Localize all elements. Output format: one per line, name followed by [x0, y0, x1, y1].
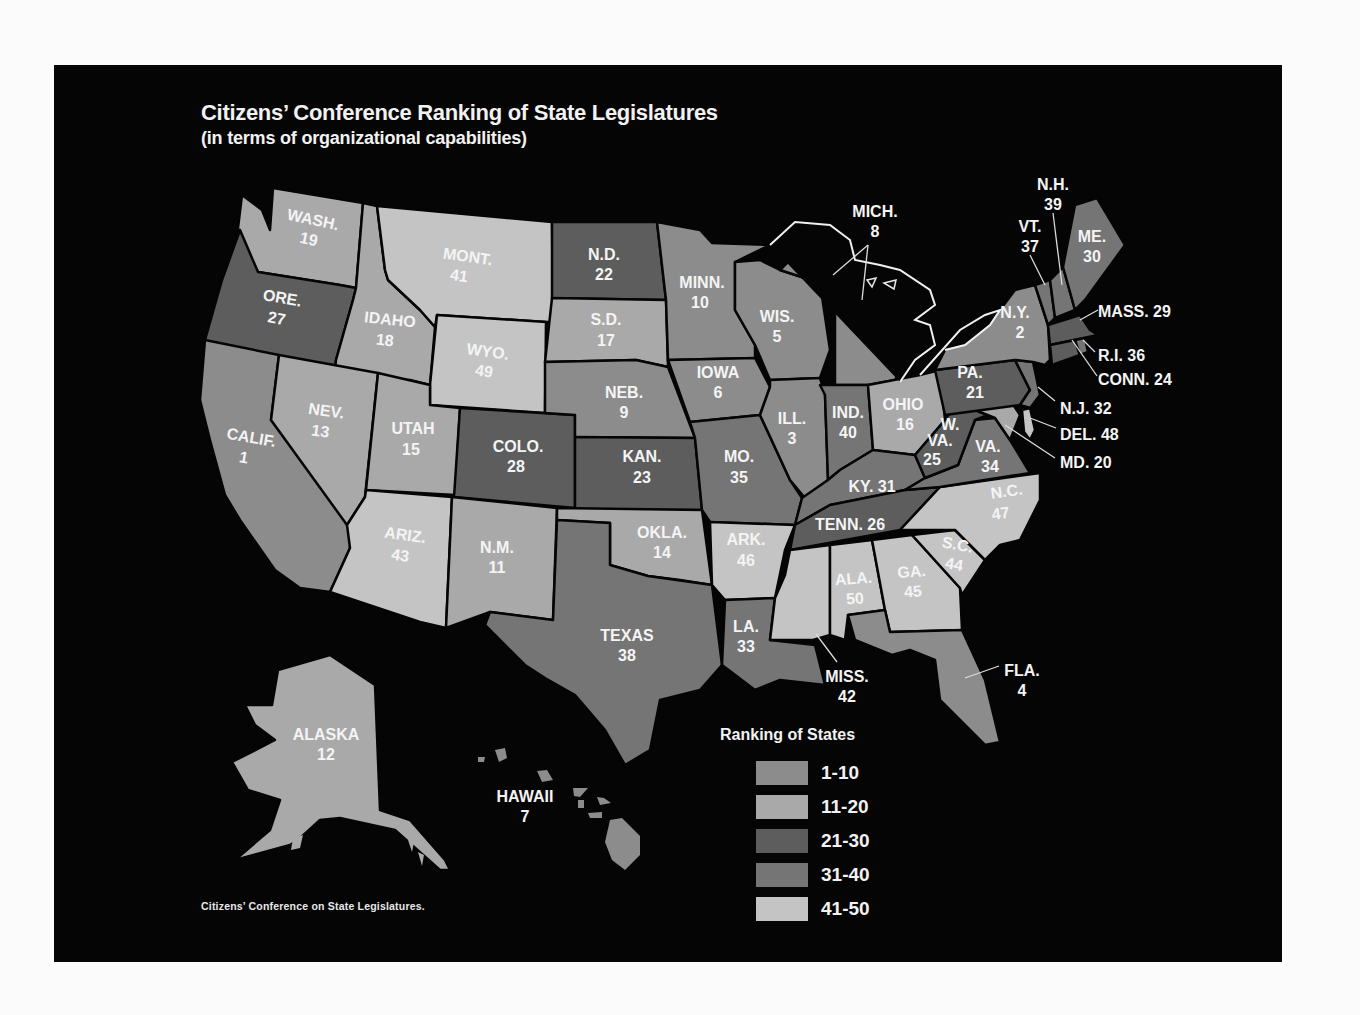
label-nj: N.J. 32 [1060, 400, 1112, 417]
leader-mass [1080, 310, 1098, 320]
label-mich-rank: 8 [871, 223, 880, 240]
svg-text:MICH.8: MICH.8 [852, 203, 897, 240]
label-pa-rank: 21 [966, 384, 984, 401]
legend-title: Ranking of States [720, 726, 870, 744]
label-ga-rank: 45 [903, 582, 922, 600]
legend-item: 31-40 [756, 858, 870, 892]
svg-text:MISS.42: MISS.42 [825, 668, 869, 705]
svg-text:HAWAII7: HAWAII7 [497, 788, 554, 825]
legend-item: 21-30 [756, 824, 870, 858]
label-la-name: LA. [733, 618, 759, 635]
label-ill-rank: 3 [788, 430, 797, 447]
label-miss-rank: 42 [838, 688, 856, 705]
svg-text:FLA.4: FLA.4 [1004, 662, 1040, 699]
state-del[interactable] [1022, 408, 1035, 440]
label-wis-rank: 5 [773, 328, 782, 345]
label-hawaii-name: HAWAII [497, 788, 554, 805]
label-va-name: VA. [975, 438, 1000, 455]
label-nc-rank: 47 [991, 504, 1011, 523]
label-minn-name: MINN. [679, 274, 724, 291]
label-wva-name-2: VA. [927, 432, 952, 449]
legend: Ranking of States 1-10 11-20 21-30 31-40… [720, 726, 870, 926]
label-nh-rank: 39 [1044, 196, 1062, 213]
label-ariz-rank: 43 [390, 546, 410, 565]
label-nm-rank: 11 [489, 559, 506, 576]
legend-swatch-31-40 [756, 863, 808, 887]
label-colo-rank: 28 [507, 458, 525, 475]
label-vt-rank: 37 [1021, 238, 1039, 255]
label-colo-name: COLO. [493, 438, 544, 455]
label-miss-name: MISS. [825, 668, 869, 685]
label-ny-rank: 2 [1016, 324, 1025, 341]
label-ohio-rank: 16 [896, 416, 914, 433]
label-texas-rank: 38 [618, 647, 636, 664]
label-okla-name: OKLA. [637, 524, 687, 541]
label-mo-rank: 35 [730, 469, 748, 486]
label-ill-name: ILL. [778, 410, 806, 427]
label-sd-name: S.D. [590, 311, 621, 328]
state-fla[interactable] [848, 610, 1000, 745]
label-ga-name: GA. [897, 562, 927, 581]
label-pa-name: PA. [957, 364, 982, 381]
label-nm-name: N.M. [480, 539, 514, 556]
label-idaho-rank: 18 [375, 331, 395, 350]
label-md: MD. 20 [1060, 454, 1112, 471]
state-ny[interactable] [935, 285, 1050, 370]
label-neb-name: NEB. [605, 384, 643, 401]
label-sd-rank: 17 [597, 332, 615, 349]
label-del: DEL. 48 [1060, 426, 1119, 443]
label-ny-name: N.Y. [1000, 304, 1029, 321]
label-alaska-rank: 12 [317, 746, 335, 763]
label-kan-name: KAN. [622, 448, 661, 465]
label-va-rank: 34 [981, 458, 999, 475]
label-ore-rank: 27 [267, 308, 288, 328]
label-fla-name: FLA. [1004, 662, 1040, 679]
legend-label: 21-30 [821, 830, 870, 852]
label-ark-name: ARK. [726, 531, 765, 548]
label-ark-rank: 46 [737, 552, 755, 569]
legend-label: 1-10 [821, 762, 859, 784]
state-hawaii[interactable] [478, 748, 640, 870]
legend-label: 11-20 [821, 796, 869, 818]
label-vt-name: VT. [1018, 218, 1041, 235]
label-ind-name: IND. [832, 404, 864, 421]
label-wis-name: WIS. [760, 308, 795, 325]
label-tenn: TENN. 26 [815, 516, 885, 533]
label-mich-name: MICH. [852, 203, 897, 220]
label-utah-rank: 15 [402, 441, 420, 458]
label-me-name: ME. [1078, 228, 1106, 245]
label-ky: KY. 31 [848, 478, 895, 495]
label-mont-rank: 41 [449, 266, 469, 285]
leader-vt [1030, 255, 1045, 285]
label-nd-rank: 22 [595, 266, 613, 283]
label-ala-name: ALA. [834, 569, 872, 589]
label-wva-rank: 25 [923, 451, 941, 468]
label-nh-name: N.H. [1037, 176, 1069, 193]
svg-text:N.H.39: N.H.39 [1037, 176, 1069, 213]
legend-swatch-21-30 [756, 829, 808, 853]
label-neb-rank: 9 [620, 404, 629, 421]
label-me-rank: 30 [1083, 248, 1101, 265]
label-ind-rank: 40 [839, 424, 857, 441]
label-texas-name: TEXAS [600, 627, 654, 644]
label-ri: R.I. 36 [1098, 347, 1145, 364]
state-alaska[interactable] [232, 655, 450, 870]
legend-swatch-41-50 [756, 897, 808, 921]
label-hawaii-rank: 7 [521, 808, 530, 825]
svg-text:VT.37: VT.37 [1018, 218, 1041, 255]
label-okla-rank: 14 [653, 544, 671, 561]
legend-swatch-11-20 [756, 795, 808, 819]
label-ohio-name: OHIO [883, 396, 924, 413]
label-wash-rank: 19 [298, 229, 319, 249]
label-mo-name: MO. [724, 448, 754, 465]
us-map: WASH.19 ORE.27 MONT.41 IDAHO18 WYO.49 N.… [0, 0, 1360, 1015]
label-la-rank: 33 [737, 638, 755, 655]
alaska-island-2 [408, 840, 414, 852]
label-kan-rank: 23 [633, 469, 651, 486]
label-alaska-name: ALASKA [293, 726, 360, 743]
label-mass: MASS. 29 [1098, 303, 1171, 320]
legend-item: 1-10 [756, 756, 870, 790]
source-note: Citizens’ Conference on State Legislatur… [201, 900, 425, 912]
label-iowa-name: IOWA [697, 364, 740, 381]
label-iowa-rank: 6 [714, 384, 723, 401]
